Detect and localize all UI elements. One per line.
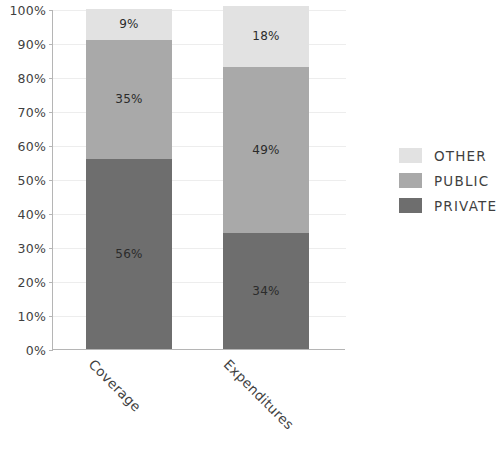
y-axis-tick-mark [49, 214, 53, 215]
bar-segment-public: 49% [223, 67, 309, 234]
y-axis-tick-label: 80% [0, 71, 46, 86]
bar-segment-private: 56% [86, 159, 172, 349]
chart-legend: OTHERPUBLICPRIVATE [399, 143, 503, 218]
y-axis-tick-label: 90% [0, 37, 46, 52]
bar-expenditures: 34%49%18% [223, 9, 309, 349]
y-axis-tick-label: 70% [0, 105, 46, 120]
bar-segment-value-label: 49% [252, 143, 280, 157]
y-axis-tick-label: 40% [0, 207, 46, 222]
x-axis-category-label: Coverage [86, 356, 145, 415]
bar-coverage: 56%35%9% [86, 9, 172, 349]
y-axis-tick-label: 0% [0, 343, 46, 358]
legend-item-private: PRIVATE [399, 193, 503, 218]
y-axis-tick-mark [49, 78, 53, 79]
bar-segment-value-label: 35% [115, 92, 143, 106]
plot-area: 56%35%9%34%49%18% [52, 10, 345, 350]
y-axis-tick-mark [49, 44, 53, 45]
bar-segment-value-label: 18% [252, 29, 280, 43]
bar-segment-public: 35% [86, 40, 172, 159]
y-axis-tick-mark [49, 112, 53, 113]
legend-item-public: PUBLIC [399, 168, 503, 193]
x-axis-category-label: Expenditures [221, 356, 298, 433]
bar-segment-value-label: 34% [252, 284, 280, 298]
y-axis-tick-label: 30% [0, 241, 46, 256]
y-axis-tick-mark [49, 10, 53, 11]
bar-segment-private: 34% [223, 233, 309, 349]
legend-swatch-public [399, 173, 422, 188]
y-axis-tick-label: 10% [0, 309, 46, 324]
bar-segment-other: 9% [86, 9, 172, 40]
legend-swatch-private [399, 198, 422, 213]
legend-label: OTHER [434, 148, 487, 164]
bar-segment-value-label: 56% [115, 247, 143, 261]
stacked-bar-chart-figure: 100%90%80%70%60%50%40%30%20%10%0% 56%35%… [0, 0, 503, 456]
y-axis-tick-mark [49, 248, 53, 249]
y-axis-tick-label: 50% [0, 173, 46, 188]
y-axis-tick-mark [49, 282, 53, 283]
y-axis-tick-mark [49, 350, 53, 351]
y-axis-tick-mark [49, 316, 53, 317]
bar-segment-other: 18% [223, 6, 309, 67]
legend-item-other: OTHER [399, 143, 503, 168]
y-axis-tick-mark [49, 180, 53, 181]
legend-swatch-other [399, 148, 422, 163]
legend-label: PUBLIC [434, 173, 489, 189]
y-axis-tick-label: 60% [0, 139, 46, 154]
y-axis-tick-label: 20% [0, 275, 46, 290]
y-axis-tick-mark [49, 146, 53, 147]
bar-segment-value-label: 9% [119, 17, 139, 31]
legend-label: PRIVATE [434, 198, 497, 214]
y-axis-tick-label: 100% [0, 3, 46, 18]
